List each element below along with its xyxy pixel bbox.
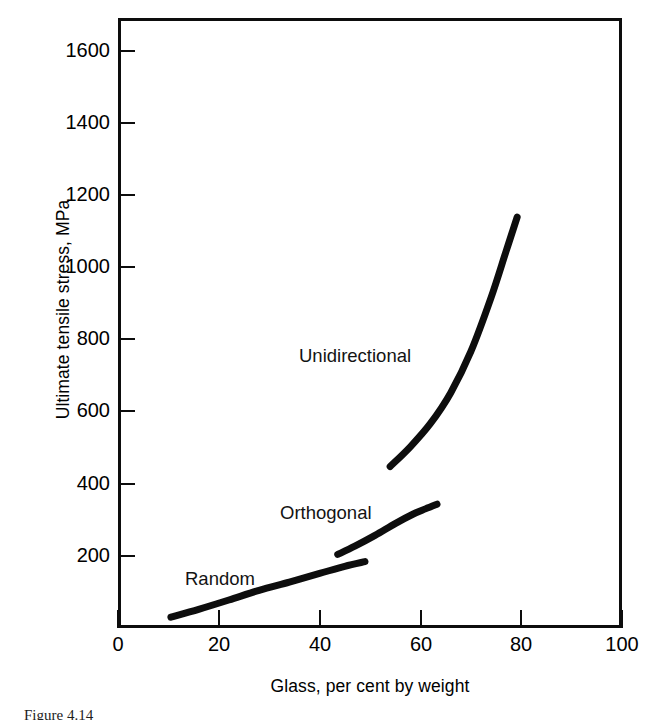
y-tick-label: 600 [18,400,110,420]
x-tick-mark [520,610,522,628]
y-tick-mark [118,122,135,124]
y-tick-mark [118,266,135,268]
y-tick-mark [118,410,135,412]
x-tick-mark [319,610,321,628]
x-axis-label: Glass, per cent by weight [118,676,622,697]
x-tick-mark [117,610,119,628]
y-tick-mark [118,194,135,196]
x-tick-label: 0 [73,634,163,654]
series-label-orthogonal: Orthogonal [280,504,372,523]
y-tick-mark [118,483,135,485]
y-tick-label: 1000 [18,256,110,276]
y-tick-mark [118,555,135,557]
figure-container: Ultimate tensile stress, MPa 1600 1400 1… [0,0,653,720]
x-tick-mark [621,610,623,628]
x-tick-label: 100 [577,634,653,654]
x-tick-label: 40 [275,634,365,654]
x-tick-label: 60 [376,634,466,654]
y-tick-label: 800 [18,328,110,348]
y-tick-label: 1200 [18,184,110,204]
y-tick-label: 1600 [18,40,110,60]
y-axis-label: Ultimate tensile stress, MPa [53,100,74,520]
y-tick-mark [118,338,135,340]
y-tick-label: 200 [18,545,110,565]
y-tick-label: 400 [18,473,110,493]
x-tick-mark [218,610,220,628]
plot-frame [118,18,622,628]
series-label-random: Random [185,570,255,589]
x-tick-label: 80 [476,634,566,654]
y-tick-mark [118,50,135,52]
series-label-unidirectional: Unidirectional [299,347,411,366]
figure-caption: Figure 4.14 [24,707,444,720]
x-tick-mark [420,610,422,628]
y-tick-label: 1400 [18,112,110,132]
x-tick-label: 20 [174,634,264,654]
